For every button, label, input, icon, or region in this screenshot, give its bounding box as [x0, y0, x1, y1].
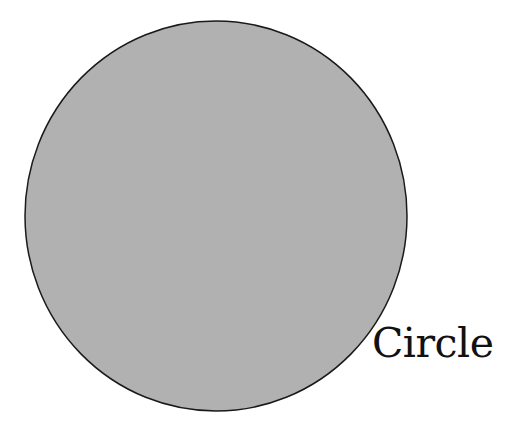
circle-shape [25, 21, 407, 411]
circle-label: Circle [372, 323, 493, 364]
